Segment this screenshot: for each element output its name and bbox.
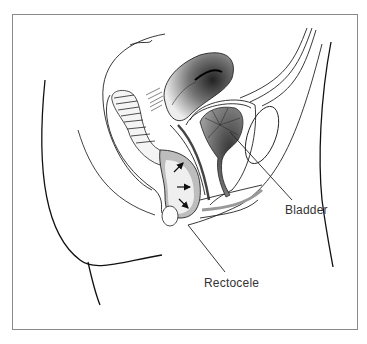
ligament xyxy=(146,88,163,111)
rectocele-leader-line xyxy=(188,225,225,272)
bladder-label: Bladder xyxy=(285,203,328,217)
rectocele-label: Rectocele xyxy=(204,276,259,290)
pelvis-diagram xyxy=(0,0,367,344)
